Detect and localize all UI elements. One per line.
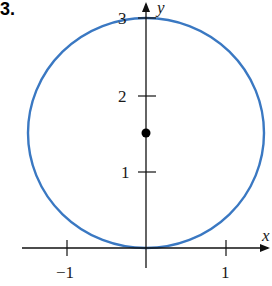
y-tick-label-1: 1 bbox=[121, 163, 130, 182]
y-tick-label-2: 2 bbox=[118, 87, 127, 106]
x-axis-label: x bbox=[261, 226, 270, 245]
center-point bbox=[142, 129, 151, 138]
diagram-canvas: 3. 3 2 1 −1 1 y x bbox=[0, 0, 272, 286]
circle-diagram: 3. 3 2 1 −1 1 y x bbox=[0, 0, 272, 286]
x-tick-label-1: 1 bbox=[221, 263, 230, 282]
x-tick-label-neg1: −1 bbox=[56, 263, 74, 282]
y-axis-label: y bbox=[155, 0, 165, 17]
y-tick-label-3: 3 bbox=[118, 9, 127, 28]
problem-number: 3. bbox=[0, 0, 15, 19]
